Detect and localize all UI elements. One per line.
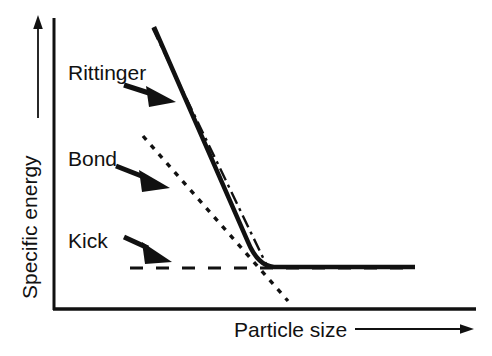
y-axis-title: Specific energy: [18, 155, 41, 299]
chart-canvas: Rittinger Bond Kick Particle size Specif…: [0, 0, 492, 356]
series-bond-line: [143, 136, 288, 301]
right-arrow-icon: [355, 324, 474, 334]
annotation-label-bond: Bond: [68, 147, 117, 170]
series-composite-curve: [154, 27, 415, 267]
arrow-pointer-icon-rittinger: [124, 85, 176, 107]
arrow-pointer-icon-bond: [116, 166, 170, 192]
annotation-label-kick: Kick: [68, 229, 108, 252]
comminution-energy-chart: Rittinger Bond Kick Particle size Specif…: [0, 0, 492, 356]
up-arrow-icon: [33, 15, 43, 118]
arrow-pointer-icon-kick: [124, 237, 172, 264]
annotation-label-rittinger: Rittinger: [68, 61, 146, 84]
x-axis-title: Particle size: [234, 318, 347, 341]
